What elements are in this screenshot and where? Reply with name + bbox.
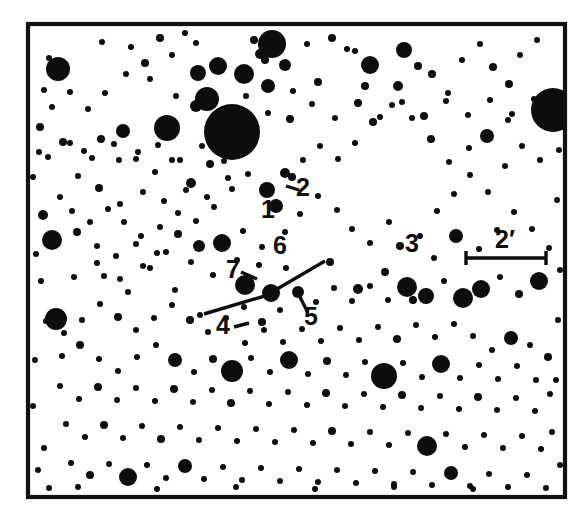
star-dot [125, 289, 131, 295]
star-dot [413, 322, 419, 328]
star-dot [279, 59, 291, 71]
star-dot [161, 198, 167, 204]
star-dot [63, 421, 69, 427]
star-dot [489, 347, 495, 353]
star-dot [304, 402, 310, 408]
star-dot [519, 143, 525, 149]
star-dot [265, 110, 271, 116]
star-dot [285, 389, 291, 395]
star-dot [190, 100, 202, 112]
star-dot [466, 145, 472, 151]
star-dot [547, 391, 553, 397]
star-dot [259, 244, 265, 250]
star-dot [322, 389, 330, 397]
star-dot [144, 462, 150, 468]
star-dot [459, 57, 465, 63]
star-dot [116, 124, 130, 138]
star-dot [538, 446, 544, 452]
star-dot [277, 307, 283, 313]
star-dot [494, 407, 500, 413]
star-dot [57, 194, 63, 200]
star-dot [204, 104, 260, 160]
star-dot [300, 157, 306, 163]
star-dot [152, 398, 158, 404]
star-dot [527, 342, 533, 348]
star-dot [174, 230, 182, 238]
star-dot [177, 424, 183, 430]
star-dot [133, 156, 139, 162]
star-dot [73, 228, 81, 236]
star-dot [113, 253, 119, 259]
star-dot [467, 172, 473, 178]
star-dot [543, 485, 549, 491]
star-dot [337, 325, 343, 331]
star-dot [168, 353, 182, 367]
star-dot [504, 331, 518, 345]
star-dot [114, 397, 120, 403]
star-dot [343, 372, 349, 378]
star-dot [106, 461, 112, 467]
star-dot [353, 480, 359, 486]
star-dot [139, 423, 145, 429]
star-dot [451, 191, 457, 197]
star-dot [534, 37, 540, 43]
star-dot [465, 112, 471, 118]
star-dot [304, 41, 310, 47]
star-dot [362, 359, 368, 365]
star-dot [243, 93, 249, 99]
star-dot [513, 395, 519, 401]
star-dot [371, 363, 397, 389]
star-dot [128, 44, 134, 50]
star-dot [248, 355, 254, 361]
star-dot [69, 208, 75, 214]
star-dot [154, 250, 160, 256]
star-dot [396, 242, 404, 250]
star-dot [97, 135, 105, 143]
star-dot [30, 403, 36, 409]
star-dot [443, 431, 449, 437]
star-dot [309, 101, 315, 107]
star-dot [42, 230, 62, 250]
star-dot [196, 437, 202, 443]
star-dot [283, 265, 289, 271]
star-dot [41, 445, 47, 451]
star-dot [262, 284, 280, 302]
star-dot [531, 96, 537, 102]
star-dot [138, 233, 144, 239]
star-dot [429, 482, 435, 488]
star-dot [385, 297, 391, 303]
star-dot [386, 442, 392, 448]
star-dot [348, 441, 354, 447]
star-dot [318, 338, 324, 344]
star-dot [495, 376, 501, 382]
star-dot [557, 267, 563, 273]
star-dot [515, 290, 523, 298]
star-dot [151, 315, 157, 321]
star-dot [193, 240, 205, 252]
star-dot [135, 149, 141, 155]
star-dot [549, 429, 555, 435]
star-dot [377, 114, 383, 120]
star-dot [123, 71, 129, 77]
star-dot [453, 288, 473, 308]
star-dot [349, 298, 355, 304]
star-dot [43, 318, 49, 324]
star-dot [205, 329, 211, 335]
star-dot [209, 387, 215, 393]
star-dot [505, 117, 511, 123]
star-dot [419, 374, 425, 380]
star-dot [356, 337, 362, 343]
star-dot [353, 284, 363, 294]
star-dot [317, 143, 323, 149]
star-dot [134, 354, 140, 360]
star-dot [361, 56, 379, 74]
star-dot [82, 434, 88, 440]
star-dot [451, 321, 457, 327]
star-dot [546, 245, 552, 251]
star-dot [247, 388, 253, 394]
star-dot [121, 219, 127, 225]
star-dot [45, 308, 67, 330]
star-dot [258, 318, 266, 326]
star-dot [81, 148, 87, 154]
star-dot [217, 116, 223, 122]
